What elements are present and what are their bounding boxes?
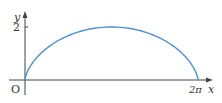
x-tick-label: 2π [188,84,202,95]
graph-canvas: y 2 O 2π x [0,0,222,103]
function-curve [25,27,198,80]
y-axis-arrow-icon [23,11,28,18]
x-axis-arrow-icon [206,78,213,83]
origin-label: O [11,83,20,96]
x-axis-label: x [208,83,215,96]
y-tick-label: 2 [13,21,20,34]
